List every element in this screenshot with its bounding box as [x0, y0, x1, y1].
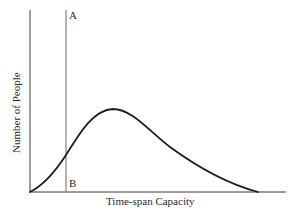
distribution-chart — [0, 0, 294, 217]
marker-label-a: A — [69, 10, 77, 21]
y-axis-label: Number of People — [11, 72, 22, 153]
x-axis-label: Time-span Capacity — [106, 196, 195, 207]
marker-label-b: B — [69, 178, 76, 189]
distribution-curve — [30, 109, 258, 192]
